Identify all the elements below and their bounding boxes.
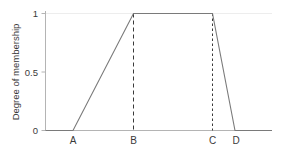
membership-curve [46,14,273,131]
x-tick-label-d: D [232,135,239,146]
x-tick-label-a: A [70,135,77,146]
x-tick-label-b: B [130,135,137,146]
y-tick-label-1: 1 [33,8,38,19]
y-axis-title: Degree of membership [10,24,21,121]
y-tick-label-0: 0 [33,125,38,136]
y-tick-label-0-5: 0.5 [25,67,38,78]
x-tick-label-c: C [209,135,216,146]
membership-function-chart: 1 0.5 0 Degree of membership A B C D [0,0,283,155]
chart-figure: 1 0.5 0 Degree of membership A B C D [0,0,283,155]
